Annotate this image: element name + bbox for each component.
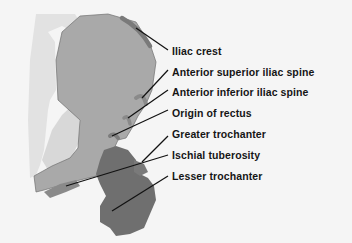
label-iliac-crest: Iliac crest [172, 45, 222, 57]
femur-shape [96, 146, 156, 236]
label-greater-trochanter: Greater trochanter [172, 128, 266, 140]
label-ischial-tuberosity: Ischial tuberosity [172, 149, 260, 161]
label-origin-of-rectus: Origin of rectus [172, 107, 252, 119]
anatomy-diagram: Iliac crest Anterior superior iliac spin… [0, 0, 352, 243]
label-anterior-superior-iliac-spine: Anterior superior iliac spine [172, 66, 314, 78]
label-lesser-trochanter: Lesser trochanter [172, 170, 262, 182]
label-anterior-inferior-iliac-spine: Anterior inferior iliac spine [172, 86, 309, 98]
pelvis-femur-illustration [0, 0, 352, 243]
